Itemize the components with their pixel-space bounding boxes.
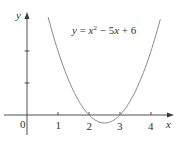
x-tick-label-1: 1 [56, 119, 62, 131]
y-axis-label: y [15, 9, 21, 21]
x-tick-label-4: 4 [148, 120, 154, 132]
origin-label: 0 [20, 118, 26, 130]
x-axis-arrow-icon [167, 113, 174, 118]
x-tick-label-3: 3 [117, 120, 123, 132]
parabola-chart: y x 0 1 2 3 4 y = x2 − 5x + 6 [0, 0, 179, 143]
equation-annotation: y = x2 − 5x + 6 [71, 24, 137, 36]
y-axis-arrow-icon [25, 12, 30, 19]
x-axis-label: x [165, 118, 171, 130]
x-tick-label-2: 2 [87, 120, 93, 132]
